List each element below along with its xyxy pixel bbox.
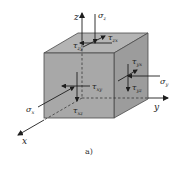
sigma-y-label: σy (160, 77, 168, 88)
figure-caption: a) (85, 147, 93, 156)
cube-front-face (44, 53, 114, 118)
y-axis-label: y (153, 102, 160, 112)
x-axis (18, 120, 44, 135)
sigma-z-label: σz (98, 11, 106, 21)
z-axis-label: z (73, 12, 79, 22)
stress-cube-diagram: z y x σz τzx τzy σx τxy τxz σy τyz τyx a… (0, 0, 180, 170)
sigma-x-label: σx (26, 105, 34, 115)
x-axis-label: x (22, 136, 27, 146)
